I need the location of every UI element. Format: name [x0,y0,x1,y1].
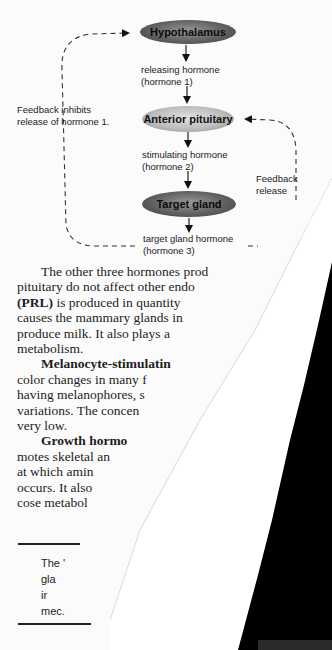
shadow-strip [258,640,332,650]
